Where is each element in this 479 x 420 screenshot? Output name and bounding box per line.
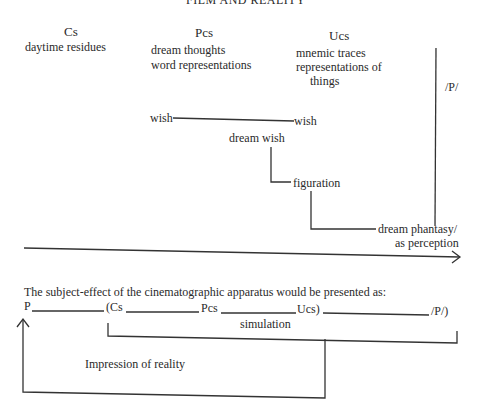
diagram-lines — [0, 0, 479, 420]
